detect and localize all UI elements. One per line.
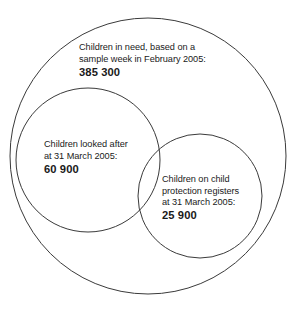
label-child-protection-registers: Children on child protection registers a… — [162, 174, 239, 223]
value-child-protection-registers: 25 900 — [162, 209, 239, 223]
label-children-in-need: Children in need, based on a sample week… — [79, 42, 206, 79]
label-children-looked-after-line-1: Children looked after — [44, 139, 128, 151]
value-children-in-need: 385 300 — [79, 65, 206, 79]
label-children-in-need-line-1: Children in need, based on a — [79, 42, 206, 54]
label-children-looked-after-line-2: at 31 March 2005: — [44, 151, 128, 163]
label-child-protection-line-1: Children on child — [162, 174, 239, 186]
label-children-looked-after: Children looked after at 31 March 2005: … — [44, 139, 128, 176]
label-children-in-need-line-2: sample week in February 2005: — [79, 54, 206, 66]
label-child-protection-line-3: at 31 March 2005: — [162, 197, 239, 209]
value-children-looked-after: 60 900 — [44, 162, 128, 176]
venn-diagram: Children in need, based on a sample week… — [0, 0, 298, 309]
label-child-protection-line-2: protection registers — [162, 186, 239, 198]
